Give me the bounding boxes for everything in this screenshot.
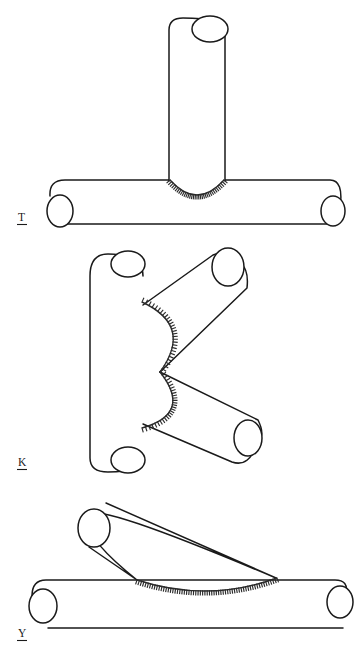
figure-y-joint: Y: [17, 503, 353, 641]
k-weld-upper-hatching: [142, 298, 178, 375]
chord-left-end-cap: [47, 195, 73, 227]
chord-tube-body: [50, 180, 341, 224]
brace-top-end-cap: [192, 16, 228, 42]
figure-t-joint: T: [17, 16, 345, 227]
chord-right-end-cap: [327, 586, 353, 618]
lower-brace-end-cap: [234, 420, 262, 456]
upper-brace-end-cap: [212, 248, 244, 286]
brace-tube-body: [169, 18, 225, 181]
welded-joints-drawing: TKY: [0, 0, 356, 654]
chord-tube-body: [90, 254, 143, 472]
chord-right-end-cap: [321, 196, 345, 226]
chord-tube-body: [32, 580, 347, 628]
chord-left-end-cap: [29, 589, 57, 623]
k-joint-label-text: K: [18, 456, 27, 468]
y-joint-label-text: Y: [18, 627, 27, 639]
k-weld-lower-arc: [142, 372, 173, 428]
t-joint-label-text: T: [18, 211, 25, 223]
figure-sheet: TKY: [0, 0, 356, 654]
brace-end-cap: [78, 509, 110, 547]
figure-k-joint: K: [17, 248, 262, 473]
chord-top-end-cap: [111, 251, 145, 277]
brace-tube-body: [88, 503, 276, 580]
chord-bottom-end-cap: [111, 447, 145, 473]
